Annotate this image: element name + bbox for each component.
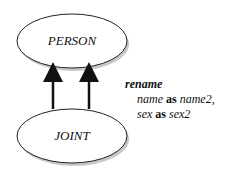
rename-attr: name: [137, 92, 163, 106]
rename-keyword: rename: [125, 77, 215, 92]
rename-new: name2,: [180, 92, 215, 106]
person-node-label: PERSON: [17, 33, 127, 49]
rename-line-sex: sex as sex2: [125, 107, 215, 122]
rename-line-name: name as name2,: [125, 92, 215, 107]
rename-annotation: rename name as name2, sex as sex2: [125, 77, 215, 122]
as-keyword: as: [155, 107, 166, 121]
as-keyword: as: [166, 92, 177, 106]
joint-node-label: JOINT: [17, 128, 127, 144]
rename-attr: sex: [137, 107, 152, 121]
rename-new: sex2: [169, 107, 190, 121]
